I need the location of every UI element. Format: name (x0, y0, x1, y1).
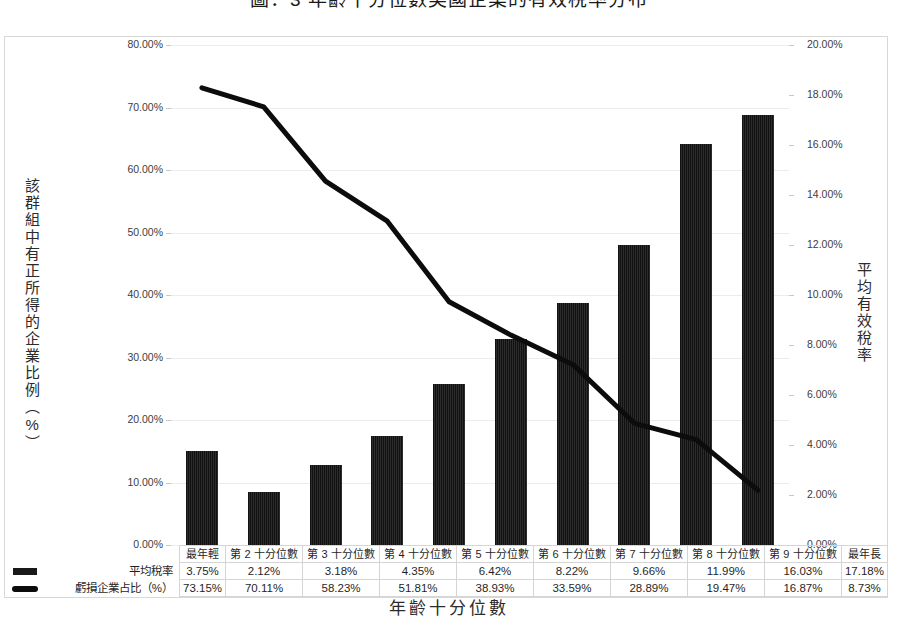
table-row-bar-series: 平均稅率 3.75%2.12%3.18%4.35%6.42%8.22%9.66%… (4, 563, 888, 580)
header-legend-spacer (46, 546, 180, 563)
y-axis-right-tick-label: 14.00% (807, 189, 867, 200)
table-header-cell: 第 4 十分位數 (380, 546, 457, 563)
y-axis-right-tick-label: 10.00% (807, 289, 867, 300)
y-axis-right-tick-mark (789, 295, 794, 296)
y-axis-right-tick-mark (789, 395, 794, 396)
x-axis-title: 年齡十分位數 (0, 594, 898, 619)
y-axis-right-tick-mark (789, 495, 794, 496)
table-cell-line-value: 51.81% (380, 580, 457, 597)
line-series-svg (171, 45, 789, 545)
header-marker-spacer (4, 546, 46, 563)
table-cell-bar-value: 17.18% (841, 563, 887, 580)
table-cell-bar-value: 16.03% (764, 563, 841, 580)
table-row-line-series: 虧損企業占比（%） 73.15%70.11%58.23%51.81%38.93%… (4, 580, 888, 597)
table-cell-bar-value: 4.35% (380, 563, 457, 580)
bar-marker-icon (4, 563, 46, 580)
table-header-cell: 第 7 十分位數 (610, 546, 687, 563)
table-cell-bar-value: 6.42% (457, 563, 534, 580)
page-title: 圖：3 年齡十分位數美國企業的有效稅率分布 (0, 0, 898, 12)
y-axis-right-tick-mark (789, 195, 794, 196)
y-axis-left-tick-label: 10.00% (103, 477, 163, 488)
y-axis-left-tick-label: 60.00% (103, 164, 163, 175)
table-header-cell: 第 5 十分位數 (457, 546, 534, 563)
table-cell-bar-value: 11.99% (687, 563, 764, 580)
y-axis-right-tick-label: 8.00% (807, 339, 867, 350)
table-header-cell: 第 9 十分位數 (764, 546, 841, 563)
y-axis-left-title: 該群組中有正所得的企業比例（%） (24, 178, 40, 508)
table-cell-bar-value: 9.66% (610, 563, 687, 580)
line-swatch-icon (12, 586, 38, 592)
bar-swatch-icon (13, 568, 37, 575)
table-cell-line-value: 19.47% (687, 580, 764, 597)
y-axis-right-tick-mark (789, 95, 794, 96)
y-axis-right-tick-label: 20.00% (807, 39, 867, 50)
table-cell-line-value: 28.89% (610, 580, 687, 597)
table-header-cell: 第 8 十分位數 (687, 546, 764, 563)
line-series-layer (171, 45, 789, 545)
table-row-headers: 最年輕第 2 十分位數第 3 十分位數第 4 十分位數第 5 十分位數第 6 十… (4, 546, 888, 563)
y-axis-right-tick-mark (789, 345, 794, 346)
y-axis-right-tick-mark (789, 245, 794, 246)
table-cell-line-value: 58.23% (303, 580, 380, 597)
table-header-cell: 第 6 十分位數 (533, 546, 610, 563)
y-axis-right-tick-label: 2.00% (807, 489, 867, 500)
legend-label-bar: 平均稅率 (46, 563, 180, 580)
table-cell-bar-value: 8.22% (533, 563, 610, 580)
table-header-cell: 第 3 十分位數 (303, 546, 380, 563)
table-cell-line-value: 33.59% (533, 580, 610, 597)
table-cell-bar-value: 2.12% (226, 563, 303, 580)
line-marker-icon (4, 580, 46, 597)
legend-label-line: 虧損企業占比（%） (46, 580, 180, 597)
data-table: 最年輕第 2 十分位數第 3 十分位數第 4 十分位數第 5 十分位數第 6 十… (4, 545, 888, 597)
y-axis-right-tick-label: 4.00% (807, 439, 867, 450)
table-cell-line-value: 16.87% (764, 580, 841, 597)
table-cell-bar-value: 3.75% (180, 563, 226, 580)
y-axis-right-tick-label: 18.00% (807, 89, 867, 100)
y-axis-right-tick-mark (789, 445, 794, 446)
y-axis-right-tick-label: 12.00% (807, 239, 867, 250)
table-cell-line-value: 8.73% (841, 580, 887, 597)
y-axis-left-tick-label: 70.00% (103, 102, 163, 113)
table-header-cell: 最年長 (841, 546, 887, 563)
y-axis-left-tick-label: 50.00% (103, 227, 163, 238)
y-axis-right-tick-mark (789, 45, 794, 46)
y-axis-right-tick-label: 16.00% (807, 139, 867, 150)
table-cell-line-value: 38.93% (457, 580, 534, 597)
table-header-cell: 最年輕 (180, 546, 226, 563)
table-header-cell: 第 2 十分位數 (226, 546, 303, 563)
y-axis-left-tick-label: 80.00% (103, 39, 163, 50)
y-axis-left-tick-label: 20.00% (103, 414, 163, 425)
table-cell-bar-value: 3.18% (303, 563, 380, 580)
y-axis-left-tick-label: 30.00% (103, 352, 163, 363)
y-axis-right-tick-mark (789, 145, 794, 146)
y-axis-right-tick-label: 6.00% (807, 389, 867, 400)
table-cell-line-value: 73.15% (180, 580, 226, 597)
y-axis-left-tick-label: 40.00% (103, 289, 163, 300)
table-cell-line-value: 70.11% (226, 580, 303, 597)
plot-area: 0.00%10.00%20.00%30.00%40.00%50.00%60.00… (171, 45, 789, 545)
